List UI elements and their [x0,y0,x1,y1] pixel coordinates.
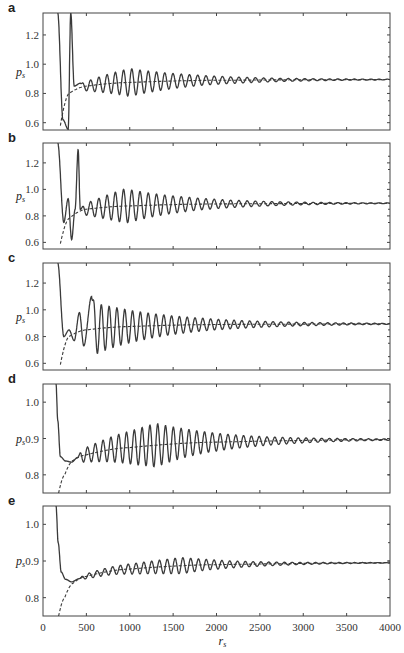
y-tick-label: 1.2 [25,277,39,289]
y-axis-label-sub: s [22,195,25,204]
series-oscillating-solid [58,263,390,353]
panel-label: c [8,250,15,265]
y-tick-label: 1.0 [25,183,39,195]
y-tick-label: 0.6 [25,357,39,369]
y-axis-label: ps [15,310,25,325]
y-axis-label-sub: s [22,438,25,447]
panel-label: a [8,0,16,15]
y-tick-label: 1.0 [25,304,39,316]
panel-d: d0.80.91.0ps [8,371,390,493]
figure: a0.60.81.01.2psb0.60.81.01.2psc0.60.81.0… [0,0,404,653]
x-tick-label: 1500 [162,621,185,633]
y-tick-label: 1.0 [25,396,39,408]
y-tick-label: 0.9 [25,555,39,567]
y-tick-label: 1.2 [25,29,39,41]
series-oscillating-solid [56,384,390,467]
y-tick-label: 1.0 [25,518,39,530]
plot-frame [43,13,390,130]
y-axis-label: ps [15,554,25,569]
series-mean-dashed [60,324,390,365]
panel-label: e [8,493,15,508]
series-oscillating-solid [58,143,390,240]
y-tick-label: 1.0 [25,58,39,70]
x-tick-label: 500 [78,621,95,633]
x-tick-label: 1000 [119,621,142,633]
y-tick-label: 0.9 [25,433,39,445]
x-axis-label-sub: s [223,640,226,649]
panel-b: b0.60.81.01.2ps [8,130,390,249]
y-tick-label: 0.8 [25,592,39,604]
y-tick-label: 0.8 [25,87,39,99]
x-tick-label: 2500 [249,621,272,633]
panel-label: d [8,371,16,386]
y-tick-label: 0.8 [25,210,39,222]
y-axis-label-sub: s [22,560,25,569]
y-tick-label: 0.8 [25,469,39,481]
x-tick-label: 0 [40,621,46,633]
y-tick-label: 0.6 [25,117,39,129]
y-axis-label-sub: s [22,316,25,325]
y-tick-label: 1.2 [25,157,39,169]
plot-frame [43,506,390,616]
x-tick-label: 3000 [292,621,315,633]
series-mean-dashed [59,440,390,493]
x-tick-label: 4000 [379,621,402,633]
y-tick-label: 0.8 [25,331,39,343]
panel-label: b [8,130,16,145]
x-axis-label: rs [219,634,227,649]
y-axis-label: ps [15,189,25,204]
panel-e: e0.80.91.0ps0500100015002000250030003500… [8,493,402,649]
series-mean-dashed [59,563,390,616]
y-axis-label-sub: s [22,71,25,80]
series-oscillating-solid [58,13,390,129]
x-tick-label: 3500 [336,621,359,633]
series-oscillating-solid [56,506,390,582]
panel-a: a0.60.81.01.2ps [8,0,390,130]
y-tick-label: 0.6 [25,236,39,248]
y-axis-label: ps [15,65,25,80]
plot-frame [43,143,390,249]
panel-c: c0.60.81.01.2ps [8,250,390,370]
x-tick-label: 2000 [206,621,229,633]
y-axis-label: ps [15,432,25,447]
